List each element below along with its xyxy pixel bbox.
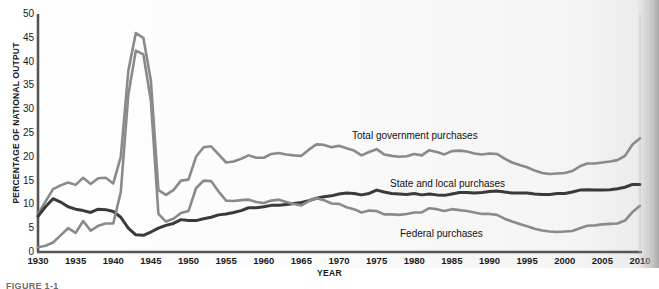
x-axis-title: YEAR [0, 268, 659, 278]
x-tick-1935: 1935 [65, 255, 86, 266]
series-line-state_local [38, 184, 640, 235]
series-label-state_local: State and local purchases [390, 178, 505, 189]
series-label-federal: Federal purchases [400, 228, 483, 239]
x-tick-2000: 2000 [554, 255, 575, 266]
line-chart-svg [0, 0, 659, 268]
x-tick-2005: 2005 [592, 255, 613, 266]
chart-plot-area: PERCENTAGE OF NATIONAL OUTPUT 0510152025… [0, 0, 659, 268]
x-tick-2010: 2010 [629, 255, 650, 266]
x-tick-1995: 1995 [517, 255, 538, 266]
x-tick-1930: 1930 [27, 255, 48, 266]
figure-caption: FIGURE 1-1 [6, 281, 59, 289]
x-tick-1955: 1955 [216, 255, 237, 266]
figure-container: PERCENTAGE OF NATIONAL OUTPUT 0510152025… [0, 0, 659, 289]
x-tick-1990: 1990 [479, 255, 500, 266]
x-tick-1965: 1965 [291, 255, 312, 266]
series-label-total: Total government purchases [352, 130, 478, 141]
x-tick-1980: 1980 [404, 255, 425, 266]
x-tick-1985: 1985 [441, 255, 462, 266]
series-line-total [38, 33, 640, 214]
x-tick-1945: 1945 [140, 255, 161, 266]
x-tick-1970: 1970 [328, 255, 349, 266]
x-tick-1940: 1940 [103, 255, 124, 266]
x-tick-1975: 1975 [366, 255, 387, 266]
x-tick-1960: 1960 [253, 255, 274, 266]
x-tick-1950: 1950 [178, 255, 199, 266]
